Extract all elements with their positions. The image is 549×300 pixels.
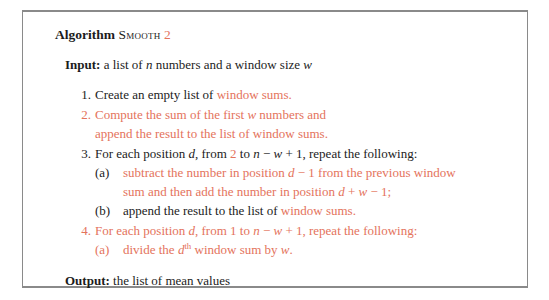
substep-line: subtract the number in position d − 1 fr…: [123, 163, 511, 182]
input-line: Input: a list of n numbers and a window …: [65, 56, 511, 74]
input-text-a: a list of: [104, 57, 143, 72]
substep-line: append the result to the list of window …: [123, 201, 511, 220]
text-segment: w: [274, 146, 283, 161]
step-line: Create an empty list of window sums.: [95, 85, 511, 104]
step-line: For each position d, from 2 to n − w + 1…: [95, 144, 511, 163]
text-segment: − 1;: [367, 184, 391, 199]
step-text: Create an empty list of window sums.: [95, 85, 511, 104]
algorithm-step: 2.Compute the sum of the first w numbers…: [37, 105, 511, 143]
text-segment: w: [274, 223, 283, 238]
step-text: Compute the sum of the first w numbers a…: [95, 105, 511, 143]
algorithm-steps: 1.Create an empty list of window sums.2.…: [37, 85, 511, 259]
step-number: 1.: [73, 85, 91, 104]
algorithm-name: Smooth: [118, 27, 160, 42]
text-segment: Create an empty list of: [95, 87, 217, 102]
text-segment: window sums.: [217, 87, 292, 102]
algorithm-substeps: (a)divide the dth window sum by w.: [95, 240, 511, 259]
input-var-w: w: [303, 57, 312, 72]
text-segment: append the result to the list of window …: [95, 126, 328, 141]
text-segment: +: [345, 184, 359, 199]
substep-text: subtract the number in position d − 1 fr…: [123, 163, 511, 201]
algorithm-body: Algorithm Smooth 2 Input: a list of n nu…: [23, 12, 527, 300]
algorithm-figure-page: Algorithm Smooth 2 Input: a list of n nu…: [0, 0, 549, 300]
text-segment: append the result to the list of: [123, 203, 281, 218]
step-number: 3.: [73, 144, 91, 163]
text-segment: + 1, repeat the following:: [282, 223, 417, 238]
step-number: 2.: [73, 105, 91, 124]
step-line: Compute the sum of the first w numbers a…: [95, 105, 511, 124]
algorithm-keyword: Algorithm: [55, 27, 115, 42]
text-segment: window sums.: [281, 203, 356, 218]
substep-letter: (a): [95, 163, 119, 182]
text-segment: + 1, repeat the following:: [282, 146, 417, 161]
text-segment: For each position: [95, 223, 189, 238]
algorithm-step: 3.For each position d, from 2 to n − w +…: [37, 144, 511, 220]
algorithm-step: 1.Create an empty list of window sums.: [37, 85, 511, 104]
input-text-b: numbers and a window size: [156, 57, 300, 72]
step-number: 4.: [73, 221, 91, 240]
output-line: Output: the list of mean values: [65, 272, 511, 290]
substep-line: sum and then add the number in position …: [123, 182, 511, 201]
step-text: For each position d, from 1 to n − w + 1…: [95, 221, 511, 240]
algorithm-substep: (b)append the result to the list of wind…: [95, 201, 511, 220]
text-segment: −: [260, 146, 274, 161]
text-segment: sum and then add the number in position: [123, 184, 338, 199]
text-segment: to: [237, 146, 254, 161]
substep-letter: (a): [95, 240, 119, 259]
text-segment: For each position: [95, 146, 189, 161]
substep-text: append the result to the list of window …: [123, 201, 511, 220]
step-line: For each position d, from 1 to n − w + 1…: [95, 221, 511, 240]
output-label: Output:: [65, 273, 110, 288]
substep-text: divide the dth window sum by w.: [123, 240, 511, 259]
text-segment: w: [359, 184, 368, 199]
algorithm-substep: (a)divide the dth window sum by w.: [95, 240, 511, 259]
text-segment: w: [281, 242, 290, 257]
algorithm-substep: (a)subtract the number in position d − 1…: [95, 163, 511, 201]
substep-letter: (b): [95, 201, 119, 220]
algorithm-version: 2: [164, 27, 171, 42]
output-text: the list of mean values: [113, 273, 230, 288]
text-segment: numbers and: [256, 107, 326, 122]
algorithm-heading: Algorithm Smooth 2: [55, 26, 511, 44]
text-segment: −: [260, 223, 274, 238]
text-segment: , from: [195, 146, 230, 161]
step-text: For each position d, from 2 to n − w + 1…: [95, 144, 511, 163]
input-label: Input:: [65, 57, 100, 72]
algorithm-frame: Algorithm Smooth 2 Input: a list of n nu…: [22, 10, 528, 288]
text-segment: , from 1 to: [195, 223, 253, 238]
algorithm-substeps: (a)subtract the number in position d − 1…: [95, 163, 511, 220]
text-segment: subtract the number in position: [123, 165, 288, 180]
text-segment: Compute the sum of the first: [95, 107, 247, 122]
text-segment: − 1 from the previous window: [295, 165, 456, 180]
algorithm-step: 4.For each position d, from 1 to n − w +…: [37, 221, 511, 259]
step-line: append the result to the list of window …: [95, 124, 511, 143]
substep-line: divide the dth window sum by w.: [123, 240, 511, 259]
text-segment: w: [247, 107, 256, 122]
text-segment: divide the: [123, 242, 178, 257]
text-segment: window sum by: [191, 242, 281, 257]
text-segment: .: [290, 242, 293, 257]
